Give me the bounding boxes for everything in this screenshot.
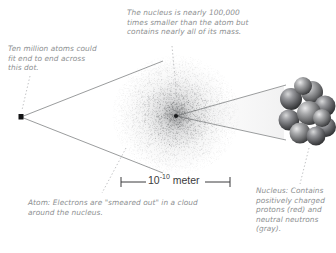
caption-atom: Atom: Electrons are "smeared out" in a c… xyxy=(28,198,198,217)
dotted-leader-dot-icon xyxy=(22,76,30,110)
caption-nucleus: Nucleus: Contains positively charged pro… xyxy=(256,186,334,234)
nucleon-sphere-cluster-icon xyxy=(279,77,336,146)
atom-scale-diagram: The nucleus is nearly 100,000 times smal… xyxy=(0,0,336,253)
scale-bar-exponent: -10 xyxy=(160,173,170,180)
dotted-leader-nucleus-icon xyxy=(300,148,309,184)
black-square-dot-icon xyxy=(19,114,24,120)
caption-ink-dot: Ten million atoms could fit end to end a… xyxy=(8,44,100,73)
scale-bar-unit: meter xyxy=(173,174,200,186)
dotted-leader-atom-icon xyxy=(102,148,126,193)
caption-nucleus-size: The nucleus is nearly 100,000 times smal… xyxy=(127,8,263,37)
scale-bar-value: 10 xyxy=(148,174,160,186)
electron-cloud-stipple-icon xyxy=(113,56,240,175)
scale-bar-label: 10-10 meter xyxy=(148,173,200,186)
